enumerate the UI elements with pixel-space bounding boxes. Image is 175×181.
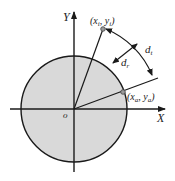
inner-point bbox=[101, 27, 106, 32]
x-axis-label: X bbox=[156, 111, 165, 125]
radial-distance-label: dr bbox=[121, 56, 130, 70]
coordinate-diagram: Y X o (xi, yi) (xa, ya) dr dt bbox=[0, 0, 175, 181]
outer-point bbox=[121, 90, 126, 95]
tangential-distance-label: dt bbox=[145, 43, 154, 57]
outer-point-label: (xa, ya) bbox=[127, 91, 155, 104]
y-axis-label: Y bbox=[63, 10, 71, 24]
origin-label: o bbox=[63, 110, 68, 120]
inner-point-label: (xi, yi) bbox=[90, 15, 115, 28]
